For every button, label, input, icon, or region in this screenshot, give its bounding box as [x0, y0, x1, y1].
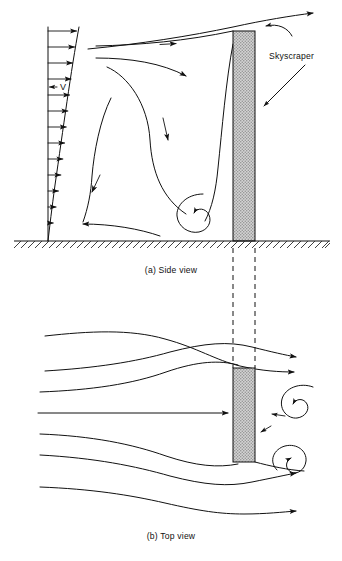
- velocity-profile-curve: [48, 27, 79, 241]
- skyscraper-elevation: [233, 31, 255, 241]
- streamline-top-7: [40, 487, 296, 514]
- velocity-profile: [48, 27, 79, 241]
- streamline-over-roof: [88, 13, 313, 49]
- reverse-flow-arrow-1: [272, 414, 285, 416]
- skyscraper-leader-line: [264, 65, 305, 106]
- caption-top-view: (b) Top view: [0, 531, 342, 541]
- streamline-descending: [96, 58, 186, 76]
- side-view-streamlines: [83, 13, 313, 236]
- wake-vortex-lower: [273, 445, 306, 473]
- ground-vortex: [177, 194, 210, 232]
- skyscraper-label: Skyscraper: [269, 51, 314, 61]
- recirculation-inner-arrow: [92, 175, 100, 192]
- streamline-roof-approach: [96, 31, 233, 46]
- streamline-top-6: [40, 455, 296, 485]
- streamline-top-5: [40, 434, 238, 466]
- skyscraper-plan: [233, 368, 255, 462]
- velocity-label: V: [60, 82, 66, 92]
- reverse-flow-arrows: [261, 414, 285, 432]
- skyscraper-callout: [264, 25, 305, 106]
- streamline-top-3: [40, 362, 238, 392]
- caption-side-view: (a) Side view: [0, 265, 342, 275]
- top-view-streamlines: [38, 332, 304, 514]
- recirculation-inner-loop: [83, 98, 111, 222]
- streamline-arrow: [160, 44, 176, 45]
- recirculation-arrow: [163, 118, 168, 140]
- ground-hatching: [14, 241, 330, 248]
- ground-plane-side: [14, 241, 330, 248]
- figure-canvas: [0, 0, 342, 561]
- wake-vortices: [273, 385, 313, 473]
- ground-return-streamline: [83, 224, 160, 236]
- figure-root: V Skyscraper (a) Side view (b) Top view: [0, 0, 342, 561]
- side-view-panel: [14, 13, 330, 248]
- wake-vortex-upper: [281, 385, 313, 418]
- recirculation-outer-loop: [107, 67, 186, 214]
- velocity-vectors: [48, 31, 77, 223]
- lee-side-streamline: [205, 44, 233, 221]
- reverse-flow-arrow-2: [261, 426, 271, 432]
- streamline-lee-lower: [255, 462, 304, 471]
- top-view-panel: [38, 332, 313, 514]
- skyscraper-callout-hook: [266, 25, 292, 36]
- streamline-top-2: [45, 344, 296, 371]
